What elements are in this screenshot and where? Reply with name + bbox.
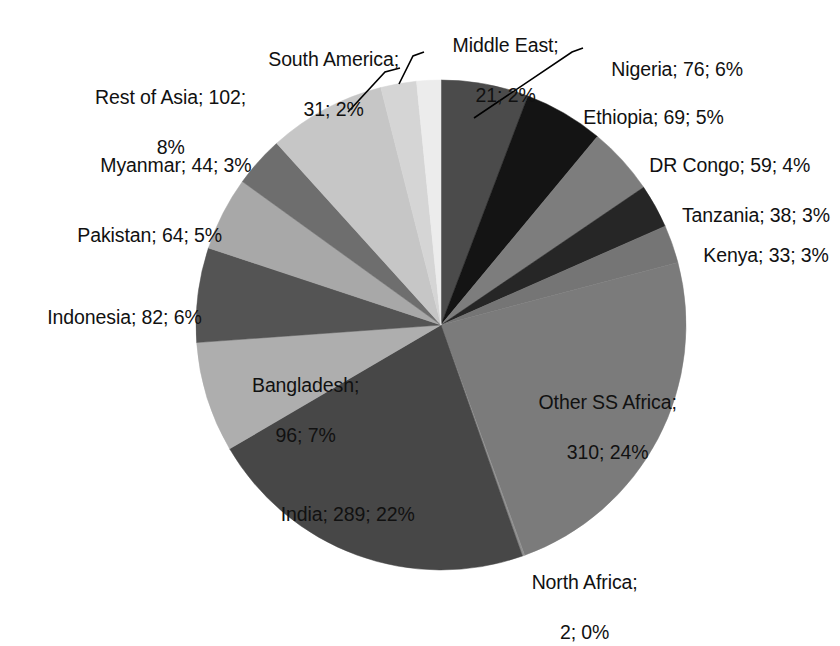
slice-label-myanmar-line1: Myanmar; 44; 3%: [100, 154, 251, 176]
slice-label-kenya: Kenya; 33; 3%: [682, 218, 840, 293]
slice-label-bangladesh-line2: 96; 7%: [276, 424, 336, 446]
slice-label-middle-east-line2: 21; 2%: [476, 84, 536, 106]
slice-label-south-america-line2: 31; 2%: [304, 98, 364, 120]
slice-label-other-ss-africa: Other SS Africa; 310; 24%: [497, 365, 697, 490]
slice-label-bangladesh: Bangladesh; 96; 7%: [200, 348, 390, 473]
slice-label-middle-east: Middle East; 21; 2%: [420, 8, 570, 133]
slice-label-dr-congo-line1: DR Congo; 59; 4%: [649, 154, 810, 176]
slice-label-north-africa-line2: 2; 0%: [560, 621, 609, 643]
slice-label-bangladesh-line1: Bangladesh;: [252, 374, 359, 396]
slice-label-rest-of-asia-line1: Rest of Asia; 102;: [95, 86, 246, 108]
slice-label-ethiopia-line1: Ethiopia; 69; 5%: [583, 106, 723, 128]
slice-label-myanmar: Myanmar; 44; 3%: [79, 128, 319, 203]
slice-label-indonesia: Indonesia; 82; 6%: [26, 280, 276, 355]
slice-label-kenya-line1: Kenya; 33; 3%: [703, 244, 829, 266]
slice-label-pakistan: Pakistan; 64; 5%: [56, 198, 296, 273]
slice-label-south-america-line1: South America;: [268, 48, 399, 70]
slice-label-pakistan-line1: Pakistan; 64; 5%: [77, 224, 222, 246]
slice-label-other-ss-africa-line1: Other SS Africa;: [539, 391, 677, 413]
slice-label-india: India; 289; 22%: [222, 477, 452, 552]
slice-label-other-ss-africa-line2: 310; 24%: [567, 441, 649, 463]
slice-label-nigeria-line1: Nigeria; 76; 6%: [611, 58, 743, 80]
slice-label-north-africa: North Africa; 2; 0%: [479, 545, 669, 646]
slice-label-india-line1: India; 289; 22%: [281, 503, 415, 525]
slice-label-indonesia-line1: Indonesia; 82; 6%: [47, 306, 201, 328]
slice-label-north-africa-line1: North Africa;: [532, 571, 638, 593]
slice-label-middle-east-line1: Middle East;: [453, 34, 559, 56]
